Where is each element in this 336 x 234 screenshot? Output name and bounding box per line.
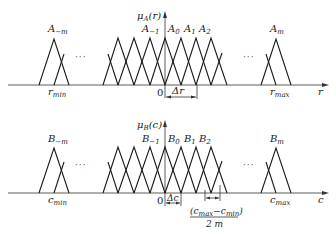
- arrow-left-icon: [206, 197, 210, 200]
- top-plot: ··· ··· μA(r) A−m A−1 A0 A1 A2 Am 0 rmin…: [8, 10, 329, 99]
- c-min-label: cmin: [48, 194, 67, 207]
- arrow-right-icon: [215, 197, 219, 200]
- fraction-denominator: 2 m: [205, 219, 223, 229]
- triangle: [103, 147, 134, 193]
- arrow-left-icon: [166, 96, 171, 99]
- set-label-B-neg-1: B−1: [141, 133, 160, 146]
- set-label-A-2: A2: [198, 23, 211, 36]
- partial-triangle: [211, 53, 222, 85]
- fraction-numerator: (cmax−cmin): [190, 206, 243, 218]
- triangle-A-0: [150, 38, 181, 85]
- top-y-axis-label: μA(r): [137, 10, 161, 23]
- fuzzy-membership-diagram: ··· ··· μA(r) A−m A−1 A0 A1 A2 Am 0 rmin…: [0, 0, 336, 234]
- partial-triangle: [54, 162, 64, 193]
- triangle-B-1: [165, 147, 196, 193]
- triangle-B-2: [181, 147, 211, 193]
- ellipsis-right: ···: [243, 52, 255, 62]
- triangle: [118, 147, 150, 193]
- bottom-origin-label: 0: [157, 195, 163, 206]
- top-y-axis-arrow-icon: [163, 11, 167, 18]
- triangle-B-neg-1: [134, 147, 165, 193]
- bottom-plot: ··· ··· μB(c) B−m B−1 B0 B1 B2 Bm 0 cmin…: [8, 119, 329, 229]
- triangle-B-0: [150, 147, 181, 193]
- partial-triangle: [54, 54, 64, 85]
- top-x-axis-label: r: [318, 86, 324, 97]
- bottom-y-axis-arrow-icon: [163, 120, 167, 127]
- top-origin-label: 0: [157, 87, 163, 98]
- partial-triangle: [108, 162, 118, 193]
- triangle: [118, 38, 150, 85]
- triangle-A-1: [165, 38, 196, 85]
- set-label-B-0: B0: [167, 133, 180, 146]
- triangle: [196, 38, 227, 85]
- r-max-label: rmax: [270, 86, 290, 99]
- set-label-A-0: A0: [167, 23, 180, 36]
- triangle-A-neg-m: [39, 39, 69, 85]
- triangle-A-2: [181, 38, 211, 85]
- bottom-y-axis-label: μB(c): [137, 119, 162, 132]
- set-label-A-1: A1: [183, 23, 196, 36]
- triangle-A-m: [261, 39, 291, 85]
- set-label-B-neg-m: B−m: [47, 133, 68, 146]
- partial-triangle: [266, 162, 276, 193]
- top-x-axis-arrow-icon: [322, 83, 329, 87]
- partial-triangle: [108, 54, 118, 85]
- delta-r-label: Δr: [171, 85, 185, 96]
- partial-triangle: [266, 54, 276, 85]
- ellipsis-right: ···: [243, 160, 255, 170]
- set-label-A-neg-m: A−m: [47, 23, 68, 36]
- triangle-A-neg-1: [134, 38, 165, 85]
- set-label-B-2: B2: [198, 133, 211, 146]
- set-label-B-1: B1: [183, 133, 196, 146]
- set-label-A-neg-1: A−1: [141, 23, 160, 36]
- triangle-B-m: [261, 148, 291, 193]
- c-max-label: cmax: [270, 194, 290, 207]
- r-min-label: rmin: [48, 86, 67, 99]
- delta-c-label: Δc: [166, 193, 179, 203]
- triangle: [196, 147, 227, 193]
- ellipsis-left: ···: [75, 160, 87, 170]
- triangle-B-neg-m: [39, 148, 69, 193]
- ellipsis-left: ···: [75, 52, 87, 62]
- set-label-A-m: Am: [269, 23, 284, 36]
- triangle: [103, 38, 134, 85]
- bottom-x-axis-label: c: [318, 194, 324, 205]
- set-label-B-m: Bm: [269, 133, 284, 146]
- arrow-right-icon: [191, 96, 196, 99]
